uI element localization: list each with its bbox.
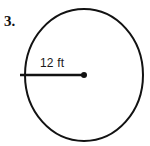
radius-measurement-label: 12 ft bbox=[40, 57, 64, 70]
circle-diagram bbox=[0, 0, 150, 146]
geometry-figure: 3. 12 ft bbox=[0, 0, 150, 146]
center-point-dot bbox=[81, 72, 87, 78]
